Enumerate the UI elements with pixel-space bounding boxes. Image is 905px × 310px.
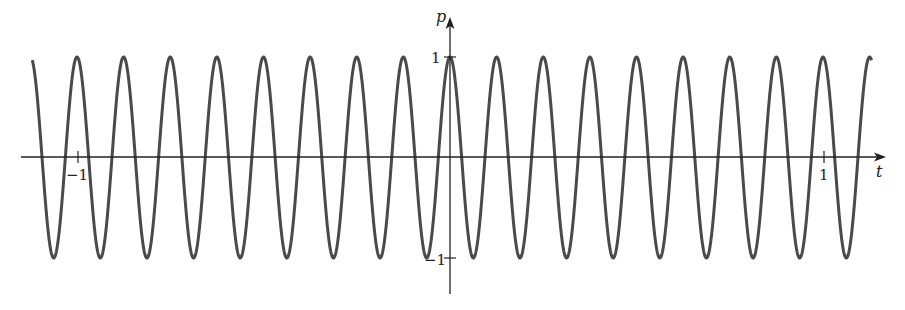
y-tick-label-neg-1: −1 bbox=[424, 251, 446, 269]
x-tick-label-neg-1: −1 bbox=[66, 166, 88, 184]
x-tick-label-pos-1: 1 bbox=[819, 166, 829, 184]
y-tick-label-pos-1: 1 bbox=[431, 49, 441, 67]
y-axis-label: p bbox=[436, 7, 446, 26]
chart: p t −1 1 1 −1 bbox=[0, 0, 905, 310]
x-axis-label: t bbox=[876, 162, 883, 181]
